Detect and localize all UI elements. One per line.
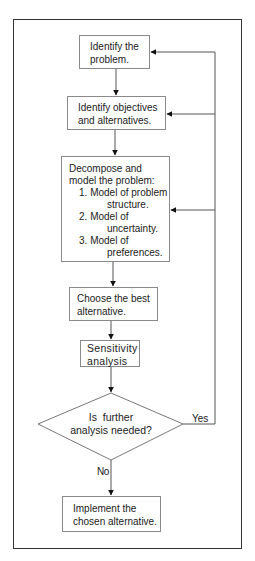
node-text-line: Implement the [73,503,160,516]
node-text-line: Identify the [90,41,149,54]
list-number: 3. [79,235,87,246]
node-text-line: problem. [90,54,149,67]
node-text-line: Is further [61,411,161,424]
node-identify-objectives: Identify objectives and alternatives. [67,96,166,130]
decision-question: Is further analysis needed? [61,411,161,437]
node-text-line: analysis [87,355,139,368]
node-text-line: Decompose and [69,163,169,175]
node-text-line: and alternatives. [78,115,165,128]
list-number: 1. [79,187,87,198]
list-number: 2. [79,211,87,222]
list-item-1-cont: structure. [69,199,169,211]
node-text-line: model the problem: [69,175,169,187]
node-decompose-model: Decompose and model the problem: 1. Mode… [61,156,170,262]
list-item-3-cont: preferences. [69,247,169,259]
edge-label-yes: Yes [192,413,208,424]
list-item-3: 3. Model of [69,235,169,247]
list-item-1: 1. Model of problem [69,187,169,199]
node-text-line: alternative. [77,306,157,319]
list-item-2-cont: uncertainty. [69,223,169,235]
list-text: Model of problem [90,187,167,198]
node-text-line: chosen alternative. [73,516,160,529]
edge-label-no: No [97,466,109,477]
list-text: Model of [90,211,128,222]
connector-lines [0,0,255,561]
node-text-line: analysis needed? [61,424,161,437]
list-text: Model of [90,235,128,246]
node-text-line: Choose the best [77,293,157,306]
list-item-2: 2. Model of [69,211,169,223]
node-text-line: Identify objectives [78,102,165,115]
feedback-loop-line [183,52,215,424]
node-sensitivity-analysis: Sensitivity analysis [80,340,140,367]
node-implement: Implement the chosen alternative. [62,496,161,532]
node-choose-best: Choose the best alternative. [69,287,158,321]
node-text-line: Sensitivity [87,342,139,355]
node-identify-problem: Identify the problem. [79,35,150,69]
